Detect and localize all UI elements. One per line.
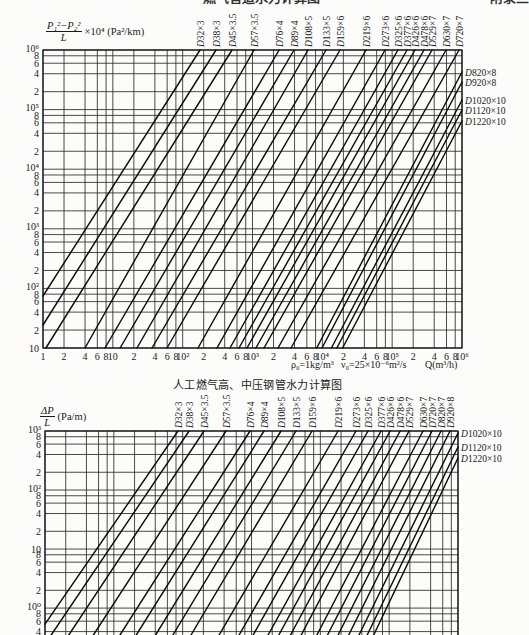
pipe-line bbox=[367, 447, 458, 635]
pipe-label: D219×6 bbox=[362, 16, 372, 48]
x-tick-label: 10³ bbox=[246, 351, 259, 362]
x-tick-label: 4 bbox=[222, 351, 227, 362]
pipe-label: D133×5 bbox=[322, 16, 332, 48]
y-axis-fraction: ΔP L bbox=[40, 405, 55, 428]
pipe-line bbox=[301, 431, 409, 635]
y-tick-label: 10 bbox=[29, 343, 39, 354]
x-tick-label: 2 bbox=[201, 351, 206, 362]
pipe-line bbox=[120, 50, 294, 348]
pipe-label: D820×8 bbox=[464, 68, 496, 78]
pipe-line bbox=[247, 50, 415, 348]
y-tick-label: 2 bbox=[34, 86, 39, 97]
y-tick-label: 6 bbox=[36, 616, 41, 627]
pipe-line bbox=[317, 431, 423, 635]
pipe-label: D219×6 bbox=[334, 397, 344, 429]
y-tick-label: 6 bbox=[34, 296, 39, 307]
y-tick-labels: 10⁶864210⁵864210⁴864210³864210²864210 bbox=[26, 43, 40, 354]
pipe-label: D45×3.5 bbox=[200, 394, 210, 429]
pipe-label: D32×3 bbox=[174, 401, 184, 429]
x-tick-label: 2 bbox=[131, 351, 136, 362]
y-axis-fraction: P₁²−P₂² L bbox=[46, 20, 82, 43]
pipe-label: D108×5 bbox=[277, 397, 287, 429]
x-tick-label: 4 bbox=[152, 351, 157, 362]
pipe-line bbox=[45, 431, 178, 624]
pipe-line bbox=[69, 431, 204, 635]
bottom-chart-y-axis-title: ΔP L (Pa/m) bbox=[40, 405, 86, 428]
y-tick-label: 2 bbox=[36, 585, 41, 596]
y-tick-label: 4 bbox=[34, 307, 39, 318]
pipe-line bbox=[173, 431, 296, 635]
pipe-line bbox=[43, 50, 200, 296]
x-axis-title: Q(m³/h) bbox=[425, 360, 457, 370]
y-tick-label: 4 bbox=[36, 626, 41, 635]
top-chart-caption: 人工燃气高、中压钢管水力计算图 bbox=[173, 379, 343, 391]
pipe-label: D1120×10 bbox=[464, 106, 506, 116]
pipe-line bbox=[85, 50, 254, 348]
pipe-label: D920×8 bbox=[464, 78, 496, 88]
pipe-label: D38×3 bbox=[212, 20, 222, 48]
y-axis-unit: (Pa/m) bbox=[58, 411, 87, 422]
x-tick-label: 6 bbox=[165, 351, 170, 362]
y-tick-label: 2 bbox=[34, 146, 39, 157]
pipe-label: D57×3.5 bbox=[222, 394, 232, 429]
y-tick-label: 6 bbox=[34, 117, 39, 128]
pipe-label: D1120×10 bbox=[460, 443, 502, 453]
pipe-label: D1220×10 bbox=[460, 454, 502, 464]
pipe-label: D273×6 bbox=[352, 397, 362, 429]
pipe-label: D720×7 bbox=[455, 16, 465, 48]
x-tick-label: 10² bbox=[176, 351, 189, 362]
pipe-line bbox=[264, 50, 432, 348]
pipe-label: D38×3 bbox=[185, 401, 195, 429]
pipe-label: D76×4 bbox=[246, 401, 256, 429]
x-tick-label: 2 bbox=[271, 351, 276, 362]
pipe-line bbox=[291, 431, 401, 635]
x-tick-label: 2 bbox=[62, 351, 67, 362]
y-tick-label: 6 bbox=[34, 58, 39, 69]
viscosity-note: ν₀=25×10⁻⁶m²/s bbox=[341, 360, 407, 370]
pipe-label: D108×5 bbox=[304, 16, 314, 48]
pipe-line bbox=[239, 431, 356, 635]
pipe-label: D133×5 bbox=[292, 397, 302, 429]
chart-canvas: 10⁶864210⁵864210⁴864210³864210²864210124… bbox=[0, 0, 529, 635]
pipe-line bbox=[51, 431, 189, 635]
y-tick-label: 4 bbox=[34, 187, 39, 198]
pipe-label: D273×6 bbox=[381, 16, 391, 48]
x-tick-label: 1 bbox=[41, 351, 46, 362]
y-tick-label: 4 bbox=[36, 567, 41, 578]
low-pressure-pipe-chart: 10³864210²864210864210⁰864D32×3D38×3D45×… bbox=[27, 394, 502, 635]
pipe-line bbox=[317, 72, 462, 348]
y-tick-label: 2 bbox=[34, 325, 39, 336]
y-tick-label: 4 bbox=[34, 68, 39, 79]
pipe-label: D529×7 bbox=[428, 16, 438, 48]
x-tick-label: 4 bbox=[83, 351, 88, 362]
pipe-label: D920×8 bbox=[446, 397, 456, 429]
y-tick-label: 2 bbox=[36, 526, 41, 537]
y-tick-label: 6 bbox=[34, 177, 39, 188]
pipe-line bbox=[152, 50, 326, 348]
fraction-denominator: L bbox=[44, 417, 50, 428]
pipe-label: D159×6 bbox=[308, 397, 318, 429]
y-tick-labels: 10³864210²864210864210⁰864 bbox=[27, 424, 41, 635]
y-axis-unit: ×10⁴ (Pa²/km) bbox=[85, 26, 145, 37]
y-tick-label: 4 bbox=[34, 247, 39, 258]
x-tick-label: 10 bbox=[108, 351, 118, 362]
pipe-line bbox=[156, 431, 281, 635]
fraction-numerator: P₁²−P₂² bbox=[46, 20, 82, 32]
pipe-line bbox=[239, 50, 407, 348]
pipe-label: D89×4 bbox=[290, 20, 300, 48]
y-tick-label: 2 bbox=[36, 467, 41, 478]
pipe-label: D630×7 bbox=[442, 16, 452, 48]
pipe-label: D57×3.5 bbox=[250, 13, 260, 48]
pipe-label: D76×4 bbox=[275, 20, 285, 48]
pipe-label: D529×7 bbox=[405, 397, 415, 429]
pipe-line bbox=[120, 431, 250, 635]
pipe-label: D159×6 bbox=[336, 16, 346, 48]
y-tick-label: 4 bbox=[34, 128, 39, 139]
y-tick-label: 4 bbox=[36, 449, 41, 460]
pipe-line bbox=[93, 431, 226, 635]
pipe-label: D325×6 bbox=[364, 397, 374, 429]
fraction-numerator: ΔP bbox=[40, 405, 55, 417]
pipe-label: D1020×10 bbox=[460, 429, 502, 439]
pipe-labels: D32×3D38×3D45×3.5D57×3.5D76×4D89×4D108×5… bbox=[174, 394, 502, 463]
y-tick-label: 2 bbox=[34, 265, 39, 276]
